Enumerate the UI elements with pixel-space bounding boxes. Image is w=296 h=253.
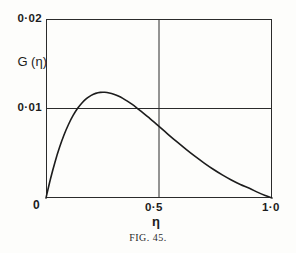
y-axis-tick-label-mid: 0·01 [17,101,42,113]
figure-caption: FIG. 45. [0,232,296,243]
x-axis-tick-label-mid: 0·5 [145,201,163,213]
plot-area [46,19,272,198]
x-axis-tick-label-right: 1·0 [262,201,280,213]
y-axis-tick-label-top: 0·02 [17,12,42,24]
y-axis-tick-label-origin: 0 [33,198,40,212]
x-axis-title: η [152,214,160,229]
chart-canvas [46,19,272,198]
figure-page: 0·02 0·01 0 G (η) 0·5 1·0 η FIG. 45. [0,0,296,253]
y-axis-title: G (η) [17,54,47,69]
